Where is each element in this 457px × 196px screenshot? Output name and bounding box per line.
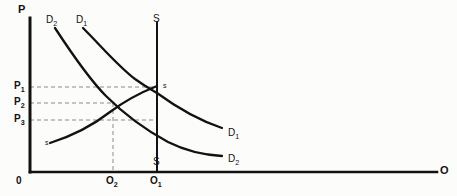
curve-label-d1-right: D1 [228, 128, 239, 140]
price-label-p3: P3 [14, 114, 25, 126]
quantity-label-o1-subscript: 1 [158, 180, 162, 189]
curve-label-s-sloped-equilibrium: s [163, 82, 167, 89]
price-label-p3-subscript: 3 [21, 118, 25, 127]
curve-label-s-bottom: S [153, 157, 160, 167]
price-label-p1-text: P [14, 80, 21, 91]
curve-label-d1-top: D1 [76, 15, 87, 27]
demand-curve-d2 [55, 28, 222, 156]
demand-curve-d1 [83, 28, 222, 128]
price-label-p1: P1 [14, 81, 25, 93]
curve-label-d2-top-subscript: 2 [53, 19, 57, 28]
price-label-p3-text: P [14, 113, 21, 124]
price-label-p2-subscript: 2 [21, 101, 25, 110]
quantity-label-o2-subscript: 2 [114, 180, 118, 189]
origin-label: 0 [16, 176, 22, 186]
quantity-label-o1: O1 [150, 176, 162, 188]
curve-label-d2-top: D2 [46, 15, 57, 27]
curve-label-d2-right: D2 [228, 154, 239, 166]
y-axis-label: P [18, 4, 25, 15]
curve-label-s-sloped-start: s [45, 139, 49, 146]
quantity-label-o2: O2 [106, 176, 118, 188]
quantity-label-o2-text: O [106, 175, 114, 186]
guide-lines [30, 87, 157, 172]
axes [30, 18, 437, 172]
diagram-canvas [0, 0, 457, 196]
curve-label-d1-right-subscript: 1 [235, 132, 239, 141]
curve-label-s-top: S [153, 14, 160, 24]
curve-label-d1-top-subscript: 1 [83, 19, 87, 28]
curve-label-d2-right-subscript: 2 [235, 158, 239, 167]
price-label-p2-text: P [14, 96, 21, 107]
price-label-p2: P2 [14, 97, 25, 109]
x-axis-label: O [440, 165, 449, 176]
supply-demand-figure: P O 0 P1 P2 P3 O2 O1 D2 D1 S D1 D2 S s s [0, 0, 457, 196]
quantity-label-o1-text: O [150, 175, 158, 186]
price-label-p1-subscript: 1 [21, 85, 25, 94]
